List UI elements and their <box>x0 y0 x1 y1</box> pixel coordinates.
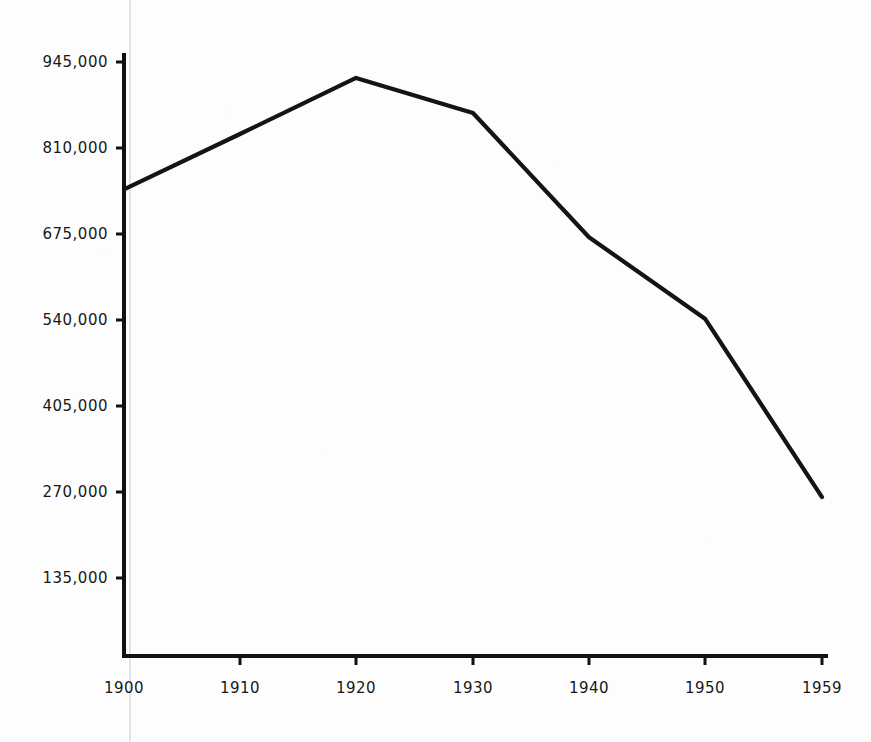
x-axis-tick-label: 1940 <box>569 679 609 697</box>
x-axis-tick-label: 1900 <box>104 679 144 697</box>
x-axis-tick-label: 1959 <box>802 679 842 697</box>
y-axis-tick-label: 675,000 <box>42 225 108 243</box>
data-series-line <box>124 78 822 497</box>
y-axis-tick-label: 135,000 <box>42 569 108 587</box>
x-axis-tick-label: 1950 <box>685 679 725 697</box>
chart-container: 945,000810,000675,000540,000405,000270,0… <box>0 0 871 742</box>
axis-lines <box>124 55 826 656</box>
y-axis-tick-label: 270,000 <box>42 483 108 501</box>
y-axis-label-group: 945,000810,000675,000540,000405,000270,0… <box>42 53 108 587</box>
y-axis-tick-label: 540,000 <box>42 311 108 329</box>
x-axis-tick-label: 1910 <box>220 679 260 697</box>
x-axis-label-group: 1900191019201930194019501959 <box>104 679 842 697</box>
line-chart-plot: 945,000810,000675,000540,000405,000270,0… <box>0 0 871 742</box>
y-axis-tick-label: 810,000 <box>42 139 108 157</box>
y-axis-tick-label: 945,000 <box>42 53 108 71</box>
x-axis-tick-label: 1930 <box>453 679 493 697</box>
x-axis-tick-label: 1920 <box>336 679 376 697</box>
y-axis-tick-label: 405,000 <box>42 397 108 415</box>
